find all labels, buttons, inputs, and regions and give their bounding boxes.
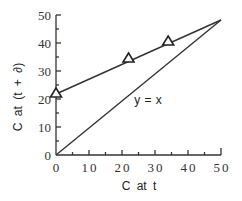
identity-line-label: y = x — [134, 93, 162, 107]
x-tick-0: 0 — [53, 160, 62, 175]
y-tick-50: 50 — [38, 8, 51, 23]
triangle-marker-2 — [163, 36, 174, 45]
y-tick-0: 0 — [45, 148, 52, 163]
x-tick-30: 30 — [148, 160, 165, 175]
y-tick-30: 30 — [38, 64, 51, 79]
identity-line — [56, 20, 221, 155]
data-fit-line — [56, 20, 221, 94]
triangle-marker-1 — [123, 53, 134, 62]
y-tick-40: 40 — [38, 36, 51, 51]
x-tick-40: 40 — [181, 160, 198, 175]
y-tick-20: 20 — [38, 92, 51, 107]
chart: 50 40 30 20 10 0 0 10 20 30 40 50 C at t… — [0, 0, 242, 201]
x-tick-10: 10 — [82, 160, 99, 175]
y-tick-10: 10 — [38, 120, 51, 135]
y-axis-label: C at (t + ∂) — [11, 63, 25, 131]
x-axis — [56, 148, 221, 155]
x-tick-50: 50 — [214, 160, 231, 175]
y-axis — [56, 15, 61, 155]
y-tick-labels: 50 40 30 20 10 0 — [38, 8, 51, 163]
x-tick-20: 20 — [115, 160, 132, 175]
x-axis-label: C at t — [122, 179, 157, 193]
x-tick-labels: 0 10 20 30 40 50 — [53, 160, 231, 175]
